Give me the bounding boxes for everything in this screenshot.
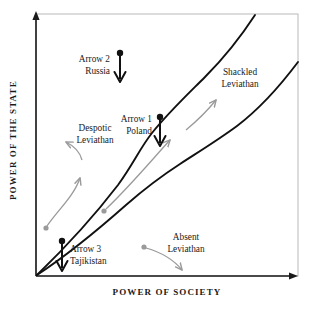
- poland-label-line2: Poland: [126, 126, 152, 136]
- absent-label-line2: Leviathan: [167, 244, 205, 254]
- shackled-pointer-dot: [101, 208, 106, 213]
- y-axis-label: POWER OF THE STATE: [8, 80, 18, 200]
- russia-label-line2: Russia: [85, 66, 110, 76]
- shackled-label-line1: Shackled: [223, 67, 257, 77]
- despotic-pointer-dot: [43, 225, 48, 230]
- narrow-corridor-diagram: POWER OF THE STATE POWER OF SOCIETY Desp…: [0, 0, 315, 311]
- russia-label-line1: Arrow 2: [79, 54, 111, 64]
- absent-label-line1: Absent: [173, 232, 200, 242]
- tajikistan-label-line1: Arrow 3: [70, 244, 102, 254]
- tajikistan-label-line2: Tajikistan: [70, 256, 107, 266]
- x-axis-label: POWER OF SOCIETY: [113, 287, 222, 297]
- despotic-label-line1: Despotic: [78, 123, 111, 133]
- despotic-label-line2: Leviathan: [76, 135, 114, 145]
- poland-label-line1: Arrow 1: [121, 114, 153, 124]
- shackled-label-line2: Leviathan: [221, 79, 259, 89]
- absent-pointer-dot: [141, 244, 146, 249]
